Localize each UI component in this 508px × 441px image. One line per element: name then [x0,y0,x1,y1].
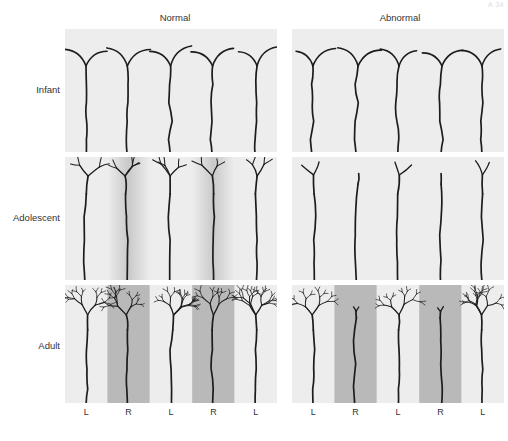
figure-root: A 34 Normal Abnormal Infant Adolescent A… [0,0,508,441]
column-band-dark [334,285,376,403]
column-band-dark [419,29,461,152]
panel-canvas [65,285,277,403]
row-label-adolescent: Adolescent [0,212,60,223]
arbor-branch [358,174,359,185]
axis-tick-l-0: L [77,407,95,417]
arbor-branch [109,306,118,307]
panel-canvas [65,157,277,280]
column-band-dark [107,285,149,403]
arbor-branch [126,330,127,403]
arbor-branch [86,330,88,403]
panel-normal-adolescent [65,157,277,280]
column-header-normal: Normal [120,12,230,23]
arbor-branch [217,159,218,166]
axis-tick-r-3: R [431,407,449,417]
axis-tick-l-4: L [474,407,492,417]
axis-ticks-abnormal: LRLRL [292,407,504,421]
column-band-dark [107,157,149,280]
panel-abnormal-adult [292,285,504,403]
axis-tick-r-1: R [120,407,138,417]
axis-ticks-normal: LRLRL [65,407,277,421]
axis-tick-l-2: L [389,407,407,417]
panel-canvas [292,29,504,152]
panel-canvas [65,29,277,152]
axis-tick-r-3: R [204,407,222,417]
arbor-branch [313,175,314,194]
panel-canvas [292,285,504,403]
arbor-branch [404,296,405,304]
row-label-infant: Infant [0,84,60,95]
arbor-branch [399,315,400,330]
column-band-dark [192,29,234,152]
axis-tick-l-4: L [247,407,265,417]
column-band-light [292,29,334,152]
column-header-abnormal: Abnormal [345,12,455,23]
row-label-adult: Adult [0,340,60,351]
panel-normal-infant [65,29,277,152]
panel-canvas [292,157,504,280]
axis-tick-r-1: R [347,407,365,417]
panel-abnormal-adolescent [292,157,504,280]
corner-mark: A 34 [488,1,504,8]
arbor-branch [201,157,202,165]
arbor-branch [482,175,483,194]
panel-normal-adult [65,285,277,403]
arbor-branch [256,315,257,330]
axis-tick-l-0: L [304,407,322,417]
column-band-light [65,157,107,280]
axis-tick-l-2: L [162,407,180,417]
arbor-branch [173,315,174,330]
panel-abnormal-infant [292,29,504,152]
